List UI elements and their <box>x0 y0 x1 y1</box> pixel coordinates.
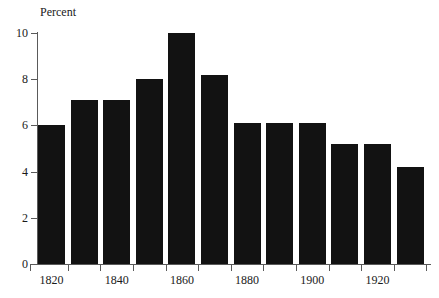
x-axis-tick-label: 1900 <box>282 274 342 287</box>
y-axis-tick-label: 4 <box>2 166 28 178</box>
x-axis-tick <box>426 265 427 271</box>
x-axis-tick-label: 1820 <box>22 274 82 287</box>
x-axis-tick <box>231 265 232 271</box>
x-axis-tick <box>68 265 69 271</box>
y-axis-tick-label: 6 <box>2 119 28 131</box>
y-axis-tick <box>31 264 37 265</box>
y-axis-tick-label: 10 <box>2 27 28 39</box>
y-axis-tick-label-wrap: 8 <box>0 73 28 85</box>
y-axis-tick <box>31 79 37 80</box>
bar <box>168 33 195 264</box>
bar <box>397 167 424 264</box>
x-axis-tick-label: 1920 <box>348 274 408 287</box>
bar <box>136 79 163 264</box>
plot-area <box>38 33 430 264</box>
y-axis-tick-label-wrap: 4 <box>0 166 28 178</box>
bar <box>71 100 98 264</box>
x-axis-tick-label: 1880 <box>217 274 277 287</box>
y-axis-tick-label-wrap: 6 <box>0 119 28 131</box>
bar <box>234 123 261 264</box>
x-axis-tick <box>296 265 297 271</box>
x-axis-tick <box>263 265 264 271</box>
y-axis-tick-label: 0 <box>2 258 28 270</box>
x-axis-tick-label: 1840 <box>87 274 147 287</box>
bar <box>266 123 293 264</box>
x-axis-tick <box>100 265 101 271</box>
y-axis-tick <box>31 125 37 126</box>
y-axis-tick <box>31 33 37 34</box>
y-axis-title: Percent <box>40 6 76 18</box>
x-axis-tick <box>166 265 167 271</box>
bar <box>331 144 358 264</box>
x-axis-tick <box>394 265 395 271</box>
y-axis-tick-label-wrap: 2 <box>0 212 28 224</box>
y-axis-tick-label: 2 <box>2 212 28 224</box>
y-axis-tick-label: 8 <box>2 73 28 85</box>
bar <box>38 125 65 264</box>
x-axis-tick <box>30 265 31 271</box>
y-axis-tick <box>31 218 37 219</box>
bar <box>364 144 391 264</box>
y-axis-tick-label-wrap: 0 <box>0 258 28 270</box>
y-axis-tick-label-wrap: 10 <box>0 27 28 39</box>
x-axis-tick-label: 1860 <box>152 274 212 287</box>
bar <box>103 100 130 264</box>
x-axis-tick <box>198 265 199 271</box>
x-axis-tick <box>361 265 362 271</box>
bar-chart: Percent 0246810 182018401860188019001920 <box>0 0 439 298</box>
y-axis-tick <box>31 172 37 173</box>
x-axis-tick <box>133 265 134 271</box>
x-axis-tick <box>329 265 330 271</box>
bar <box>201 75 228 264</box>
bar <box>299 123 326 264</box>
